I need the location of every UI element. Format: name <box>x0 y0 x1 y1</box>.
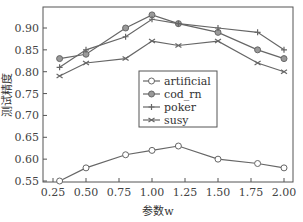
svg-text:poker: poker <box>164 101 197 114</box>
x-tick-label: 0.25 <box>41 186 66 199</box>
x-tick-label: 2.00 <box>272 186 297 199</box>
y-tick-label: 0.60 <box>15 153 40 166</box>
y-tick-label: 0.85 <box>15 44 40 57</box>
y-tick-label: 0.80 <box>15 66 40 79</box>
y-tick-label: 0.55 <box>15 175 40 188</box>
y-tick-label: 0.75 <box>15 88 40 101</box>
svg-text:cod_rn: cod_rn <box>164 88 202 101</box>
y-axis-label: 测试精度 <box>0 73 14 117</box>
x-tick-label: 1.00 <box>140 186 165 199</box>
x-tick-label: 1.25 <box>173 186 198 199</box>
svg-text:artificial: artificial <box>164 75 211 88</box>
x-axis: 0.250.500.751.001.251.501.752.00 <box>41 178 297 199</box>
y-tick-label: 0.70 <box>15 109 40 122</box>
series-cod-rn <box>57 12 287 62</box>
y-tick-label: 0.90 <box>15 22 40 35</box>
svg-text:susy: susy <box>164 114 189 127</box>
x-tick-label: 1.75 <box>239 186 264 199</box>
series-artificial <box>57 143 287 184</box>
y-axis: 0.550.600.650.700.750.800.850.90 <box>15 22 48 188</box>
x-tick-label: 1.50 <box>206 186 231 199</box>
x-tick-label: 0.50 <box>74 186 99 199</box>
legend: artificialcod_rnpokersusy <box>139 71 217 127</box>
line-chart: 0.550.600.650.700.750.800.850.90 0.250.5… <box>0 0 303 222</box>
x-axis-label: 参数w <box>142 204 174 218</box>
y-tick-label: 0.65 <box>15 131 40 144</box>
x-tick-label: 0.75 <box>107 186 132 199</box>
